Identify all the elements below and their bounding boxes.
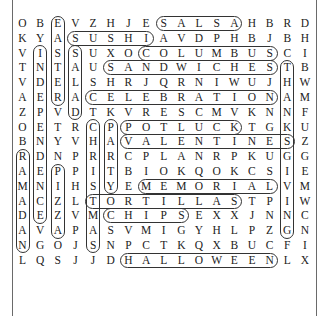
grid-letter[interactable]: A: [14, 90, 32, 105]
grid-letter[interactable]: N: [261, 208, 279, 223]
grid-letter[interactable]: N: [261, 105, 279, 120]
grid-letter[interactable]: L: [190, 194, 208, 209]
grid-letter[interactable]: T: [102, 164, 120, 179]
grid-letter[interactable]: E: [49, 16, 67, 31]
grid-letter[interactable]: C: [243, 164, 261, 179]
grid-letter[interactable]: R: [49, 90, 67, 105]
grid-letter[interactable]: G: [296, 149, 314, 164]
grid-letter[interactable]: B: [31, 16, 49, 31]
grid-letter[interactable]: M: [84, 208, 102, 223]
grid-letter[interactable]: C: [137, 238, 155, 253]
grid-letter[interactable]: H: [243, 16, 261, 31]
grid-letter[interactable]: O: [190, 253, 208, 268]
grid-letter[interactable]: P: [102, 120, 120, 135]
grid-letter[interactable]: I: [155, 223, 173, 238]
grid-letter[interactable]: E: [243, 253, 261, 268]
grid-letter[interactable]: E: [137, 90, 155, 105]
grid-letter[interactable]: P: [119, 238, 137, 253]
grid-letter[interactable]: S: [102, 60, 120, 75]
grid-letter[interactable]: C: [278, 46, 296, 61]
grid-letter[interactable]: U: [190, 46, 208, 61]
grid-letter[interactable]: U: [296, 120, 314, 135]
grid-letter[interactable]: P: [66, 149, 84, 164]
grid-letter[interactable]: C: [296, 208, 314, 223]
grid-letter[interactable]: V: [278, 179, 296, 194]
grid-letter[interactable]: Z: [261, 223, 279, 238]
grid-letter[interactable]: R: [137, 105, 155, 120]
grid-letter[interactable]: T: [49, 120, 67, 135]
grid-letter[interactable]: E: [137, 16, 155, 31]
grid-letter[interactable]: M: [208, 105, 226, 120]
grid-letter[interactable]: L: [225, 223, 243, 238]
grid-letter[interactable]: S: [102, 223, 120, 238]
grid-letter[interactable]: V: [14, 46, 32, 61]
grid-letter[interactable]: S: [84, 238, 102, 253]
grid-letter[interactable]: H: [225, 60, 243, 75]
grid-letter[interactable]: E: [296, 164, 314, 179]
grid-letter[interactable]: L: [119, 90, 137, 105]
grid-letter[interactable]: T: [155, 120, 173, 135]
grid-letter[interactable]: S: [84, 75, 102, 90]
grid-letter[interactable]: J: [261, 75, 279, 90]
grid-letter[interactable]: S: [278, 134, 296, 149]
grid-letter[interactable]: U: [261, 149, 279, 164]
grid-letter[interactable]: K: [243, 105, 261, 120]
grid-letter[interactable]: A: [119, 60, 137, 75]
grid-letter[interactable]: E: [31, 164, 49, 179]
grid-letter[interactable]: C: [84, 90, 102, 105]
grid-letter[interactable]: I: [225, 179, 243, 194]
grid-letter[interactable]: I: [31, 46, 49, 61]
grid-letter[interactable]: N: [261, 90, 279, 105]
grid-letter[interactable]: E: [119, 179, 137, 194]
grid-letter[interactable]: P: [66, 223, 84, 238]
grid-letter[interactable]: F: [278, 238, 296, 253]
grid-letter[interactable]: R: [172, 90, 190, 105]
grid-letter[interactable]: J: [66, 253, 84, 268]
grid-letter[interactable]: D: [102, 253, 120, 268]
grid-letter[interactable]: U: [243, 75, 261, 90]
grid-letter[interactable]: L: [278, 253, 296, 268]
grid-letter[interactable]: Y: [31, 31, 49, 46]
grid-letter[interactable]: C: [208, 60, 226, 75]
grid-letter[interactable]: K: [278, 120, 296, 135]
grid-letter[interactable]: L: [155, 253, 173, 268]
grid-letter[interactable]: I: [137, 31, 155, 46]
grid-letter[interactable]: H: [102, 16, 120, 31]
grid-letter[interactable]: A: [208, 194, 226, 209]
grid-letter[interactable]: V: [49, 105, 67, 120]
grid-letter[interactable]: R: [172, 75, 190, 90]
grid-letter[interactable]: J: [84, 253, 102, 268]
grid-letter[interactable]: N: [278, 105, 296, 120]
grid-letter[interactable]: W: [225, 75, 243, 90]
grid-letter[interactable]: D: [31, 75, 49, 90]
grid-letter[interactable]: O: [119, 46, 137, 61]
grid-letter[interactable]: A: [155, 31, 173, 46]
grid-letter[interactable]: E: [225, 253, 243, 268]
grid-letter[interactable]: C: [102, 208, 120, 223]
grid-letter[interactable]: O: [14, 16, 32, 31]
grid-letter[interactable]: A: [14, 194, 32, 209]
grid-letter[interactable]: D: [155, 60, 173, 75]
grid-letter[interactable]: C: [208, 120, 226, 135]
grid-letter[interactable]: R: [278, 16, 296, 31]
grid-letter[interactable]: L: [66, 75, 84, 90]
grid-letter[interactable]: I: [225, 90, 243, 105]
grid-letter[interactable]: L: [172, 194, 190, 209]
grid-letter[interactable]: X: [208, 238, 226, 253]
grid-letter[interactable]: Q: [155, 75, 173, 90]
grid-letter[interactable]: P: [155, 208, 173, 223]
grid-letter[interactable]: L: [172, 120, 190, 135]
grid-letter[interactable]: K: [225, 120, 243, 135]
grid-letter[interactable]: I: [278, 194, 296, 209]
grid-letter[interactable]: H: [296, 31, 314, 46]
grid-letter[interactable]: D: [66, 105, 84, 120]
grid-letter[interactable]: O: [14, 120, 32, 135]
grid-letter[interactable]: T: [137, 194, 155, 209]
grid-letter[interactable]: M: [296, 90, 314, 105]
grid-letter[interactable]: T: [243, 120, 261, 135]
grid-letter[interactable]: V: [119, 105, 137, 120]
grid-letter[interactable]: P: [225, 149, 243, 164]
grid-letter[interactable]: V: [119, 134, 137, 149]
grid-letter[interactable]: K: [14, 31, 32, 46]
grid-letter[interactable]: E: [155, 105, 173, 120]
